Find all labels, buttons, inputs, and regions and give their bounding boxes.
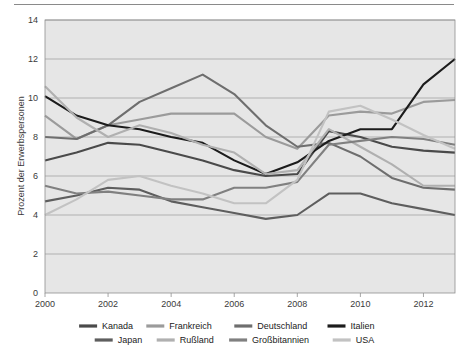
- x-tick-label: 2000: [35, 299, 55, 309]
- x-tick-label: 2002: [98, 299, 118, 309]
- legend-label-ru-land: Rußland: [180, 335, 214, 345]
- y-axis-title: Prozent der Erwerbspersonen: [16, 96, 26, 216]
- y-tick-label: 8: [33, 132, 38, 142]
- legend-label-kanada: Kanada: [102, 321, 133, 331]
- legend-label-japan: Japan: [118, 335, 143, 345]
- y-tick-label: 14: [28, 15, 38, 25]
- x-tick-label: 2006: [224, 299, 244, 309]
- y-tick-labels: 02468101214: [28, 15, 38, 298]
- x-tick-label: 2008: [287, 299, 307, 309]
- legend-label-deutschland: Deutschland: [257, 321, 307, 331]
- y-tick-label: 2: [33, 249, 38, 259]
- line-chart: 02468101214 2000200220042006200820102012…: [0, 0, 466, 363]
- y-tick-label: 0: [33, 288, 38, 298]
- legend-label-usa: USA: [356, 335, 375, 345]
- x-tick-labels: 2000200220042006200820102012: [35, 299, 433, 309]
- chart-canvas: 02468101214 2000200220042006200820102012…: [0, 0, 466, 363]
- y-tick-label: 12: [28, 54, 38, 64]
- legend-label-italien: Italien: [351, 321, 375, 331]
- legend-label-frankreich: Frankreich: [169, 321, 212, 331]
- x-tick-label: 2010: [350, 299, 370, 309]
- y-tick-label: 10: [28, 93, 38, 103]
- chart-legend: KanadaFrankreichDeutschlandItalienJapanR…: [79, 321, 374, 345]
- x-tick-label: 2004: [161, 299, 181, 309]
- legend-label-gro-bitannien: Großbitannien: [252, 335, 309, 345]
- x-tick-marks: [45, 293, 423, 297]
- plot-background: [45, 20, 455, 293]
- y-tick-label: 6: [33, 171, 38, 181]
- y-tick-label: 4: [33, 210, 38, 220]
- x-tick-label: 2012: [413, 299, 433, 309]
